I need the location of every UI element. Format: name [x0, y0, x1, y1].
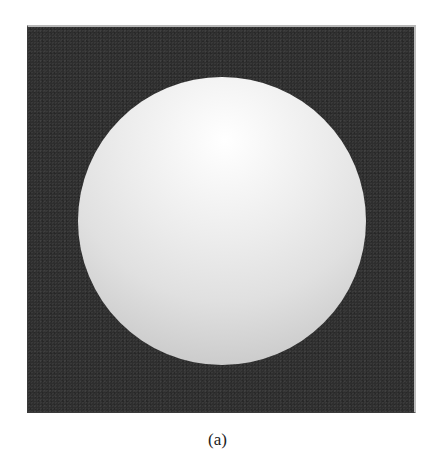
shaded-sphere	[78, 77, 366, 365]
figure-caption: (a)	[0, 430, 435, 450]
image-frame	[27, 25, 416, 413]
